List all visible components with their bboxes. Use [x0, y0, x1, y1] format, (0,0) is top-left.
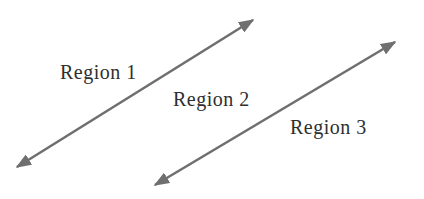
region-1-label: Region 1	[60, 62, 137, 82]
region-3-label: Region 3	[290, 117, 367, 137]
region-2-label: Region 2	[173, 89, 250, 109]
region-2-3-boundary-arrow	[155, 42, 395, 185]
diagram-canvas: Region 1 Region 2 Region 3	[0, 0, 424, 199]
